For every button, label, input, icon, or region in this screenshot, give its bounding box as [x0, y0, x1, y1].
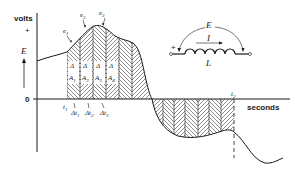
svg-text:e3: e3	[99, 9, 105, 18]
x-axis-label: seconds	[247, 103, 280, 112]
svg-text:Δ: Δ	[108, 62, 113, 70]
inductor-schematic: + E I L	[170, 20, 252, 68]
current-label: I	[206, 33, 211, 43]
svg-text:t1: t1	[63, 103, 67, 112]
svg-text:Δ: Δ	[69, 62, 74, 70]
up-arrow-icon	[22, 58, 26, 88]
inductance-label: L	[205, 58, 211, 68]
svg-text:Δ: Δ	[95, 62, 100, 70]
terminal-left	[170, 53, 173, 56]
y-axis-label: volts	[14, 14, 33, 23]
inductor-flux-diagram: volts + E 0 seconds e1 e2 e3 Δ A1 Δ A2 Δ…	[0, 0, 295, 171]
svg-text:Δt2: Δt2	[84, 109, 94, 118]
svg-text:Δt1: Δt1	[70, 109, 80, 118]
coil-icon	[185, 49, 235, 54]
svg-text:Δ: Δ	[82, 62, 87, 70]
y-axis-plus: +	[25, 26, 30, 35]
svg-text:Δt3: Δt3	[99, 109, 109, 118]
svg-text:t2: t2	[231, 90, 236, 99]
voltage-arc	[179, 27, 243, 51]
voltage-label: E	[205, 20, 212, 30]
svg-text:e2: e2	[80, 11, 86, 20]
terminal-right	[249, 53, 252, 56]
svg-text:e1: e1	[63, 27, 69, 36]
polarity-plus: +	[171, 43, 176, 52]
y-axis-quantity: E	[20, 46, 27, 56]
zero-label: 0	[25, 95, 30, 104]
